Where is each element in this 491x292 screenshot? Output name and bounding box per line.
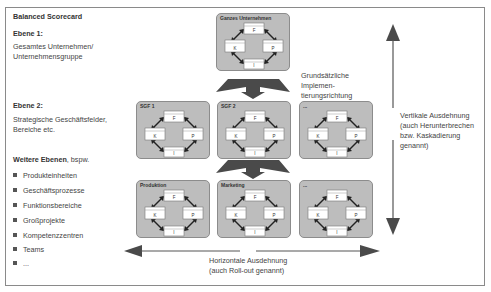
- unit-sgf2: SGF 2 F K P I: [217, 101, 291, 159]
- implementation-direction-line1: Grundsätzliche: [301, 71, 349, 81]
- perspective-f: F: [254, 195, 257, 200]
- unit-sgf1: SGF 1 F K P I: [136, 101, 210, 159]
- perspective-p: P: [191, 134, 194, 139]
- perspective-k: K: [234, 213, 237, 218]
- perspective-f: F: [336, 116, 339, 121]
- perspective-f: F: [173, 195, 176, 200]
- perspective-p: P: [354, 213, 357, 218]
- bsc-perspectives-diagram: F K P I: [218, 102, 292, 160]
- bsc-perspectives-diagram: F K P I: [137, 102, 211, 160]
- perspective-f: F: [254, 116, 257, 121]
- perspective-i: I: [253, 63, 254, 68]
- perspective-i: I: [254, 230, 255, 235]
- perspective-k: K: [316, 213, 319, 218]
- bsc-perspectives-diagram: F K P I: [137, 181, 211, 239]
- funnel-arrow-icon: [216, 160, 290, 179]
- bsc-perspectives-diagram: F K P I: [300, 102, 374, 160]
- implementation-direction-line2: Implemen-: [301, 81, 335, 91]
- bsc-perspectives-diagram: F K P I: [300, 181, 374, 239]
- horizontal-expansion-line2: (auch Roll-out genannt): [209, 266, 284, 276]
- vertical-expansion-arrow-icon: [386, 24, 400, 235]
- unit-marketing: Marketing F K P I: [217, 180, 291, 238]
- perspective-k: K: [316, 134, 319, 139]
- perspective-k: K: [153, 134, 156, 139]
- perspective-k: K: [234, 134, 237, 139]
- unit-produktion: Produktion F K P I: [136, 180, 210, 238]
- perspective-k: K: [153, 213, 156, 218]
- horizontal-expansion-line1: Horizontale Ausdehnung: [209, 256, 287, 266]
- perspective-i: I: [173, 230, 174, 235]
- perspective-f: F: [336, 195, 339, 200]
- bsc-perspectives-diagram: F K P I: [218, 181, 292, 239]
- perspective-p: P: [272, 213, 275, 218]
- vertical-expansion-line3: bzw. Kaskadierung: [400, 131, 460, 141]
- perspective-i: I: [173, 151, 174, 156]
- perspective-f: F: [253, 28, 256, 33]
- unit-level3-more: ... F K P I: [299, 180, 373, 238]
- implementation-direction-line3: tierungsrichtung: [301, 91, 352, 101]
- perspective-p: P: [272, 134, 275, 139]
- perspective-p: P: [354, 134, 357, 139]
- perspective-k: K: [233, 46, 236, 51]
- vertical-expansion-line1: Vertikale Ausdehnung: [400, 111, 470, 121]
- funnel-arrow-icon: [216, 79, 290, 99]
- perspective-p: P: [271, 46, 274, 51]
- vertical-expansion-line2: (auch Herunterbrechen: [400, 121, 474, 131]
- perspective-i: I: [336, 151, 337, 156]
- perspective-i: I: [336, 230, 337, 235]
- perspective-f: F: [173, 116, 176, 121]
- unit-level2-more: ... F K P I: [299, 101, 373, 159]
- perspective-i: I: [254, 151, 255, 156]
- bsc-perspectives-diagram: F K P I: [217, 14, 291, 72]
- vertical-expansion-line4: genannt): [400, 141, 428, 151]
- unit-top-company: Ganzes Unternehmen F K P I: [216, 13, 290, 71]
- perspective-p: P: [191, 213, 194, 218]
